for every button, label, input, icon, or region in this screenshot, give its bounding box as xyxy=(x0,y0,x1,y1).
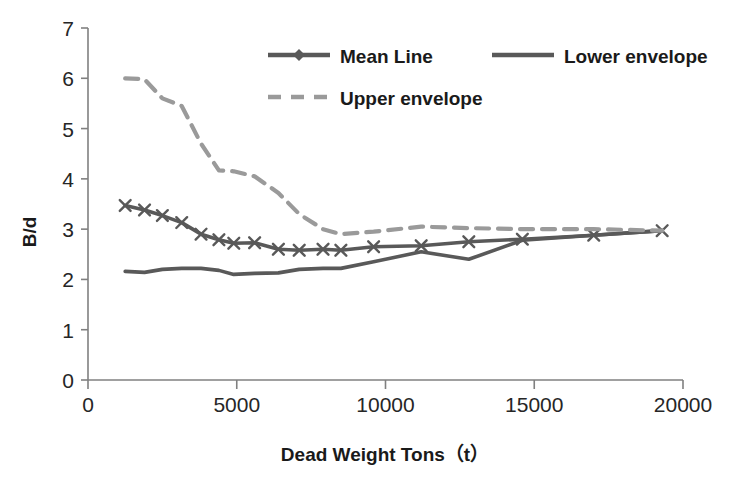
y-axis-tick-label: 1 xyxy=(62,319,74,342)
y-axis-tick-label: 0 xyxy=(62,369,74,392)
y-axis-tick-label: 4 xyxy=(62,168,74,191)
chart-container: 01234567 05000100001500020000 Mean LineL… xyxy=(0,0,736,480)
legend-label: Lower envelope xyxy=(564,46,708,67)
y-axis-tick-label: 5 xyxy=(62,118,74,141)
x-axis-tick-label: 15000 xyxy=(505,393,563,416)
x-axis-tick-label: 5000 xyxy=(213,393,260,416)
x-axis-tick-label: 0 xyxy=(82,393,94,416)
y-axis-tick-label: 7 xyxy=(62,17,74,40)
y-axis-title: B/d xyxy=(19,217,40,248)
y-axis-tick-label: 2 xyxy=(62,268,74,291)
line-chart: 01234567 05000100001500020000 Mean LineL… xyxy=(0,0,736,480)
x-axis-title: Dead Weight Tons（t） xyxy=(281,443,489,465)
legend-label: Upper envelope xyxy=(340,88,483,109)
y-axis-tick-label: 3 xyxy=(62,218,74,241)
y-axis-tick-label: 6 xyxy=(62,67,74,90)
x-axis-tick-label: 20000 xyxy=(654,393,712,416)
x-axis-tick-label: 10000 xyxy=(356,393,414,416)
legend-label: Mean Line xyxy=(340,46,433,67)
